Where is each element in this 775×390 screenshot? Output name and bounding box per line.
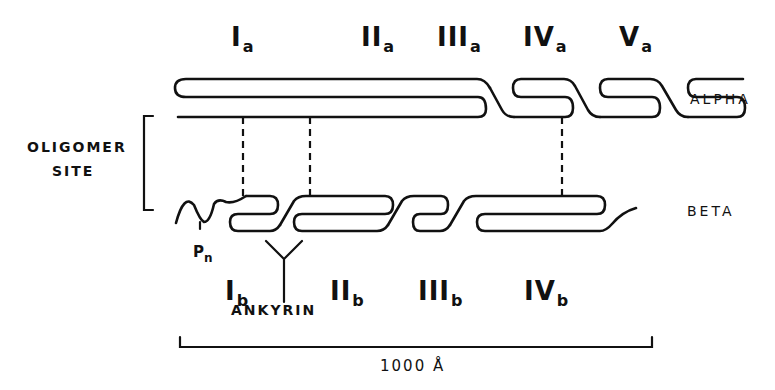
- beta-chain-label: BETA: [687, 203, 735, 219]
- alpha-chain: [175, 79, 745, 117]
- domain-label-va: Va: [619, 22, 653, 56]
- scale-bar: [180, 337, 652, 347]
- ankyrin-label: ANKYRIN: [231, 302, 316, 318]
- domain-label-iiia: IIIa: [437, 22, 482, 56]
- domain-label-ivb: IVb: [524, 276, 569, 310]
- spectrin-diagram: Ia IIa IIIa IVa Va ALPHA BETA OLIGOMER S…: [0, 0, 775, 390]
- diagram-graphics: [0, 0, 775, 390]
- phosphorylation-label: Pn: [193, 243, 213, 265]
- domain-label-iiib: IIIb: [418, 276, 463, 310]
- ankyrin-binding-icon: [266, 241, 302, 302]
- scale-label: 1000 Å: [380, 357, 445, 375]
- domain-label-iia: IIa: [361, 22, 395, 56]
- domain-label-iib: IIb: [330, 276, 365, 310]
- beta-chain: [176, 196, 636, 231]
- domain-label-ia: Ia: [231, 22, 254, 56]
- domain-label-iva: IVa: [523, 22, 568, 56]
- oligomer-label-line2: SITE: [52, 163, 94, 179]
- oligomer-bracket: [144, 116, 153, 210]
- alpha-chain-label: ALPHA: [690, 91, 751, 107]
- oligomer-label-line1: OLIGOMER: [27, 139, 127, 155]
